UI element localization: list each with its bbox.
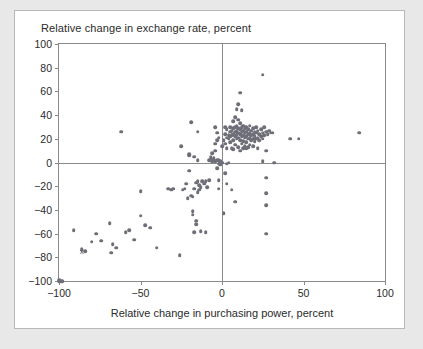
- x-tick-mark: [304, 281, 305, 285]
- y-tick-label: −100: [28, 275, 52, 287]
- scatter-point: [225, 146, 229, 150]
- scatter-point: [230, 188, 234, 192]
- scatter-point: [215, 131, 219, 135]
- y-tick-label: 40: [40, 109, 52, 121]
- scatter-point: [237, 103, 241, 107]
- y-tick-label: 20: [40, 133, 52, 145]
- scatter-point: [132, 238, 136, 242]
- scatter-point: [72, 228, 76, 232]
- scatter-point: [251, 144, 255, 148]
- y-tick-label: −20: [34, 180, 52, 192]
- scatter-point: [206, 186, 210, 190]
- scatter-point: [297, 137, 301, 141]
- y-tick-mark: [55, 68, 59, 69]
- scatter-point: [148, 226, 152, 230]
- scatter-point: [184, 182, 188, 186]
- scatter-point: [217, 187, 221, 191]
- scatter-point: [264, 232, 268, 236]
- x-tick-label: 50: [298, 287, 310, 299]
- point-annotation: x: [80, 247, 84, 256]
- scatter-point: [272, 161, 276, 165]
- scatter-point: [214, 142, 218, 146]
- x-tick-mark: [385, 281, 386, 285]
- scatter-point: [256, 146, 260, 150]
- scatter-point: [289, 137, 293, 141]
- scatter-point: [100, 239, 104, 243]
- scatter-point: [214, 149, 218, 153]
- chart-title: Relative change in exchange rate, percen…: [41, 22, 251, 34]
- scatter-point: [83, 250, 87, 254]
- scatter-point: [189, 120, 193, 124]
- y-tick-mark: [55, 186, 59, 187]
- chart-page: Relative change in exchange rate, percen…: [0, 0, 423, 349]
- scatter-point: [227, 161, 231, 165]
- scatter-point: [215, 167, 219, 171]
- scatter-point: [232, 148, 236, 152]
- y-tick-label: 80: [40, 62, 52, 74]
- scatter-point: [178, 253, 182, 257]
- scatter-point: [196, 130, 200, 134]
- scatter-point: [264, 203, 268, 207]
- scatter-point: [171, 187, 175, 191]
- scatter-point: [223, 142, 227, 146]
- scatter-point: [217, 136, 221, 140]
- scatter-point: [225, 182, 229, 186]
- scatter-point: [199, 186, 203, 190]
- scatter-point: [261, 137, 265, 141]
- y-tick-mark: [55, 210, 59, 211]
- scatter-point: [191, 213, 195, 217]
- y-tick-label: −60: [34, 228, 52, 240]
- y-tick-label: −80: [34, 251, 52, 263]
- scatter-point: [179, 144, 183, 148]
- scatter-point: [235, 107, 239, 111]
- scatter-point: [223, 171, 227, 175]
- scatter-point: [139, 189, 143, 193]
- scatter-point: [139, 214, 143, 218]
- scatter-point: [108, 221, 112, 225]
- scatter-point: [222, 212, 226, 216]
- y-tick-mark: [55, 163, 59, 164]
- scatter-point: [95, 232, 99, 236]
- scatter-point: [109, 251, 113, 255]
- scatter-point: [57, 278, 61, 282]
- scatter-point: [204, 231, 208, 235]
- scatter-point: [192, 231, 196, 235]
- scatter-point: [127, 228, 131, 232]
- x-tick-label: 100: [376, 287, 394, 299]
- scatter-point: [271, 131, 275, 135]
- y-tick-mark: [55, 139, 59, 140]
- scatter-point: [199, 229, 203, 233]
- scatter-point: [188, 169, 192, 173]
- scatter-point: [264, 176, 268, 180]
- scatter-point: [144, 224, 148, 228]
- scatter-point: [261, 160, 265, 164]
- x-tick-mark: [222, 281, 223, 285]
- scatter-point: [240, 109, 244, 113]
- scatter-point: [357, 131, 361, 135]
- y-tick-mark: [55, 44, 59, 45]
- scatter-point: [119, 130, 123, 134]
- scatter-point: [264, 149, 268, 153]
- scatter-point: [264, 192, 268, 196]
- chart-card: Relative change in exchange rate, percen…: [14, 10, 405, 329]
- y-tick-mark: [55, 234, 59, 235]
- scatter-point: [114, 246, 118, 250]
- y-tick-mark: [55, 91, 59, 92]
- x-axis-label: Relative change in purchasing power, per…: [58, 307, 386, 319]
- scatter-point: [232, 119, 236, 123]
- y-tick-label: −40: [34, 204, 52, 216]
- scatter-point: [60, 279, 64, 283]
- x-tick-label: −100: [47, 287, 71, 299]
- scatter-point: [207, 178, 211, 182]
- y-tick-label: 0: [46, 157, 52, 169]
- plot-area: −100−80−60−40−20020406080100 −100−500501…: [58, 43, 386, 282]
- scatter-point: [217, 178, 221, 182]
- scatter-point: [263, 125, 267, 129]
- x-tick-mark: [141, 281, 142, 285]
- scatter-point: [214, 125, 218, 129]
- y-tick-label: 60: [40, 85, 52, 97]
- scatter-point: [191, 195, 195, 199]
- scatter-point: [183, 187, 187, 191]
- y-tick-label: 100: [34, 38, 52, 50]
- scatter-point: [155, 246, 159, 250]
